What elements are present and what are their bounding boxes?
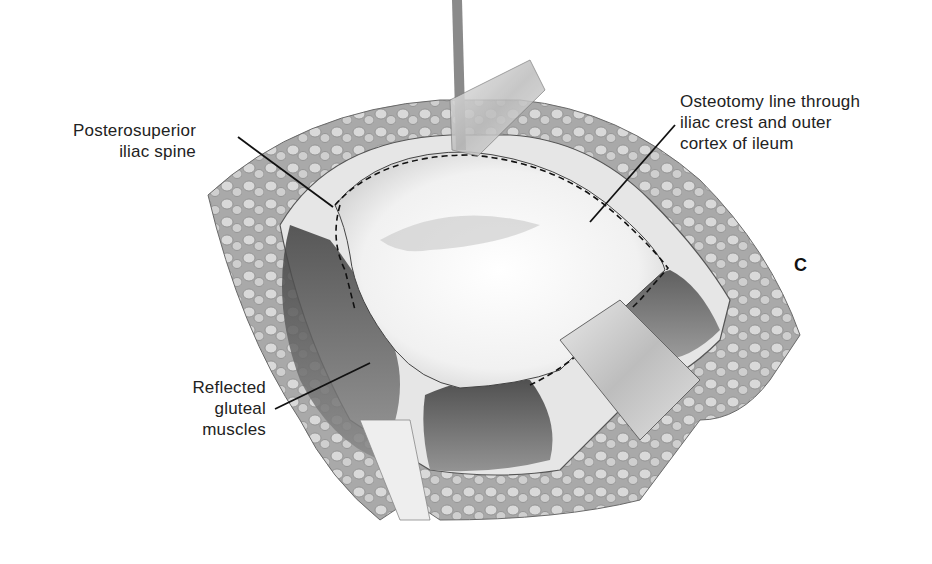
label-line: Reflected xyxy=(140,377,266,398)
muscle-bottom xyxy=(423,377,552,471)
label-line: iliac spine xyxy=(40,141,196,162)
label-osteotomy-line: Osteotomy line through iliac crest and o… xyxy=(680,91,932,154)
label-reflected-gluteal-muscles: Reflected gluteal muscles xyxy=(140,377,266,440)
label-line: Osteotomy line through xyxy=(680,91,932,112)
label-line: iliac crest and outer xyxy=(680,112,932,133)
surgical-illustration xyxy=(0,0,932,564)
label-line: muscles xyxy=(140,419,266,440)
panel-letter: C xyxy=(794,255,807,276)
label-line: cortex of ileum xyxy=(680,133,932,154)
label-line: Posterosuperior xyxy=(40,120,196,141)
label-posterosuperior-iliac-spine: Posterosuperior iliac spine xyxy=(40,120,196,162)
label-line: gluteal xyxy=(140,398,266,419)
